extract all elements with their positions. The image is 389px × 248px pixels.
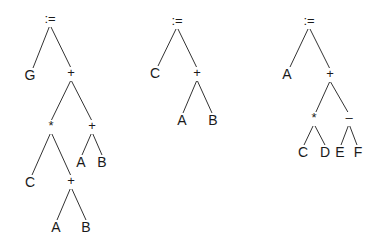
operator-node: * xyxy=(311,110,316,125)
tree-edge xyxy=(158,27,177,66)
tree-edge xyxy=(197,80,212,113)
operand-node: B xyxy=(81,219,90,235)
operator-node: := xyxy=(303,13,314,28)
tree-edge xyxy=(341,124,349,145)
operator-node: + xyxy=(67,65,75,80)
tree-edge xyxy=(51,80,71,121)
operand-node: A xyxy=(177,112,187,128)
tree-edge xyxy=(33,25,50,68)
tree-edge xyxy=(50,25,71,68)
tree-3: :=A+*–CDEF xyxy=(282,13,362,159)
tree-edge xyxy=(71,80,92,121)
expression-tree-diagram: :=G+*+ABC+AB :=C+AB :=A+*–CDEF xyxy=(0,0,389,248)
operand-node: F xyxy=(354,144,363,160)
operator-node: * xyxy=(48,118,53,133)
tree-edge xyxy=(82,132,92,155)
tree-edge xyxy=(304,124,314,145)
operator-node: + xyxy=(326,66,334,81)
operand-node: C xyxy=(298,144,308,160)
operator-node: – xyxy=(345,110,353,125)
operator-node: + xyxy=(193,65,201,80)
tree-2: :=C+AB xyxy=(150,13,218,127)
tree-edge xyxy=(315,81,330,114)
operand-node: A xyxy=(76,154,86,170)
operand-node: G xyxy=(25,67,36,83)
tree-edge xyxy=(330,81,349,114)
operand-node: B xyxy=(208,112,217,128)
tree-edge xyxy=(177,27,197,68)
operand-node: A xyxy=(51,219,61,235)
operand-node: A xyxy=(282,66,292,82)
tree-edge xyxy=(32,132,51,175)
tree-edge xyxy=(51,132,71,176)
tree-edge xyxy=(314,124,325,145)
tree-edge xyxy=(349,124,357,145)
operand-node: B xyxy=(97,154,106,170)
tree-edge xyxy=(92,132,102,155)
operand-node: C xyxy=(25,174,35,190)
tree-edge xyxy=(183,80,197,113)
operator-node: := xyxy=(44,11,55,26)
operator-node: := xyxy=(171,13,182,28)
operand-node: C xyxy=(150,65,160,81)
tree-edge xyxy=(309,27,330,69)
tree-1: :=G+*+ABC+AB xyxy=(25,11,107,234)
tree-edge xyxy=(290,27,309,67)
operand-node: D xyxy=(320,144,330,160)
operator-node: + xyxy=(67,173,75,188)
operator-node: + xyxy=(88,118,96,133)
operand-node: E xyxy=(335,144,344,160)
tree-edge xyxy=(57,187,71,220)
tree-edge xyxy=(71,187,86,220)
